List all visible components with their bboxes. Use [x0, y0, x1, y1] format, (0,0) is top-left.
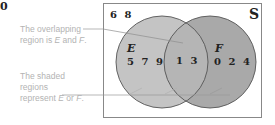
set-f-label: F: [215, 42, 223, 55]
intersection-elements: 1 3: [176, 55, 199, 66]
set-e-only-elements: 5 7 9: [127, 56, 165, 67]
set-f-only-elements: 0 2 4: [214, 56, 252, 67]
set-e-label: E: [127, 42, 135, 55]
shaded-annotation: The shaded regions represent E or F.: [20, 71, 84, 104]
outside-elements: 6 8: [110, 9, 133, 20]
overlap-annotation: The overlapping region is E and F.: [20, 24, 87, 46]
universe-label: S: [249, 6, 259, 22]
